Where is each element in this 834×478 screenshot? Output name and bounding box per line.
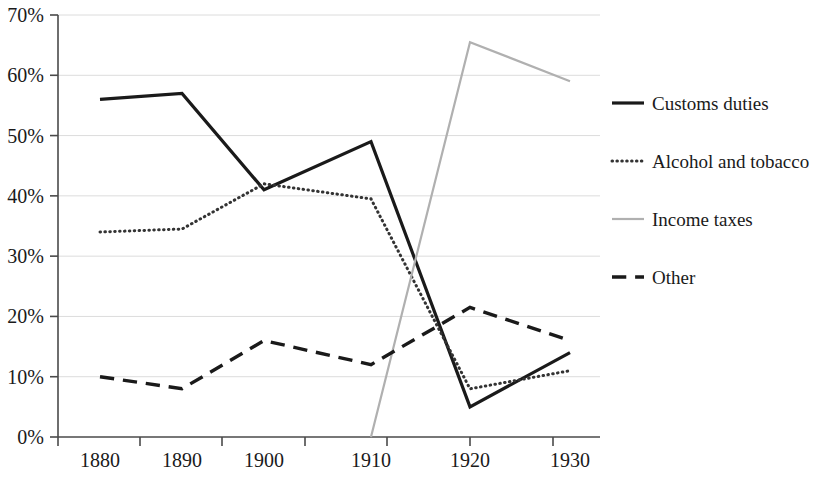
data-series <box>100 42 570 437</box>
y-tick-label: 70% <box>7 4 44 26</box>
legend-label: Other <box>652 267 696 288</box>
x-tick-label: 1910 <box>351 449 391 471</box>
series-line <box>100 93 570 406</box>
y-tick-label: 0% <box>17 426 44 448</box>
y-tick-label: 30% <box>7 245 44 267</box>
x-tick-label: 1920 <box>450 449 490 471</box>
y-tick-label: 50% <box>7 125 44 147</box>
legend-label: Customs duties <box>652 93 769 114</box>
x-axis-tick-labels: 188018901900191019201930 <box>80 449 590 471</box>
x-tick-label: 1900 <box>244 449 284 471</box>
series-line <box>371 42 570 437</box>
x-tick-label: 1880 <box>80 449 120 471</box>
x-tick-label: 1930 <box>550 449 590 471</box>
y-tick-label: 10% <box>7 366 44 388</box>
chart-container: 0%10%20%30%40%50%60%70% 1880189019001910… <box>0 0 834 478</box>
legend-label: Income taxes <box>652 209 753 230</box>
y-tick-label: 20% <box>7 305 44 327</box>
y-tick-label: 40% <box>7 185 44 207</box>
series-line <box>100 184 570 389</box>
y-axis-tick-labels: 0%10%20%30%40%50%60%70% <box>7 4 44 448</box>
legend-label: Alcohol and tobacco <box>652 151 809 172</box>
x-tick-label: 1890 <box>162 449 202 471</box>
y-tick-label: 60% <box>7 64 44 86</box>
line-chart: 0%10%20%30%40%50%60%70% 1880189019001910… <box>0 0 834 478</box>
chart-legend: Customs dutiesAlcohol and tobaccoIncome … <box>612 93 809 288</box>
